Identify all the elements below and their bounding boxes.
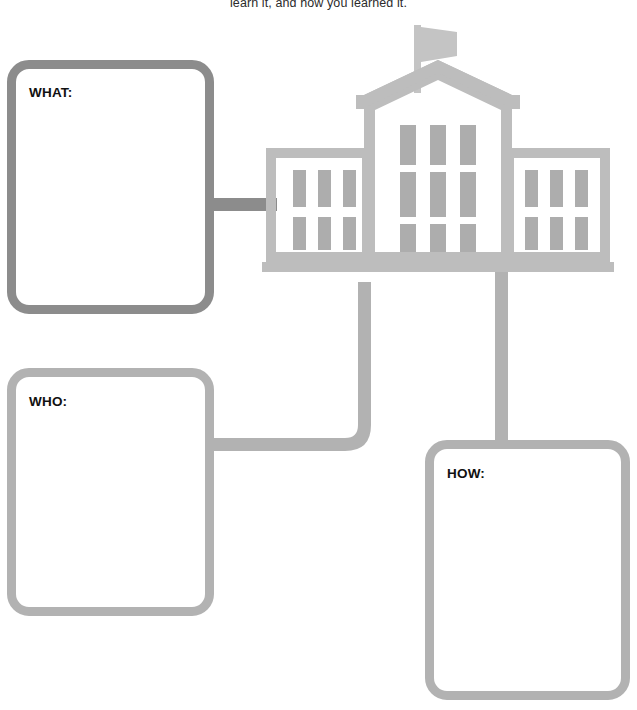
flag-banner-icon: [421, 27, 457, 62]
window: [430, 224, 446, 252]
window: [430, 125, 446, 165]
answer-box-what[interactable]: WHAT:: [7, 60, 214, 314]
window: [575, 170, 588, 207]
window: [525, 217, 538, 250]
window: [293, 170, 306, 207]
window: [460, 224, 476, 252]
connector-who-to-building: [211, 282, 371, 451]
window: [430, 172, 446, 217]
answer-box-who[interactable]: WHO:: [7, 368, 214, 616]
building-base-platform: [262, 262, 614, 272]
window: [318, 217, 331, 250]
window: [343, 217, 356, 250]
window: [400, 125, 416, 165]
window: [400, 172, 416, 217]
roof-eave-right-tip: [508, 95, 520, 109]
window: [293, 217, 306, 250]
window: [550, 170, 563, 207]
roof-eave-left-tip: [356, 95, 368, 109]
government-building-icon: [262, 25, 614, 272]
window: [343, 170, 356, 207]
window: [525, 170, 538, 207]
window: [550, 217, 563, 250]
connector-building-to-how: [495, 270, 508, 445]
worksheet-page: learn it, and how you learned it.: [0, 0, 637, 710]
window: [318, 170, 331, 207]
answer-box-who-label: WHO:: [29, 394, 67, 409]
window: [575, 217, 588, 250]
window: [460, 172, 476, 217]
window: [460, 125, 476, 165]
window: [400, 224, 416, 252]
answer-box-what-label: WHAT:: [29, 85, 72, 100]
answer-box-how-label: HOW:: [447, 466, 485, 481]
answer-box-how[interactable]: HOW:: [425, 440, 630, 700]
